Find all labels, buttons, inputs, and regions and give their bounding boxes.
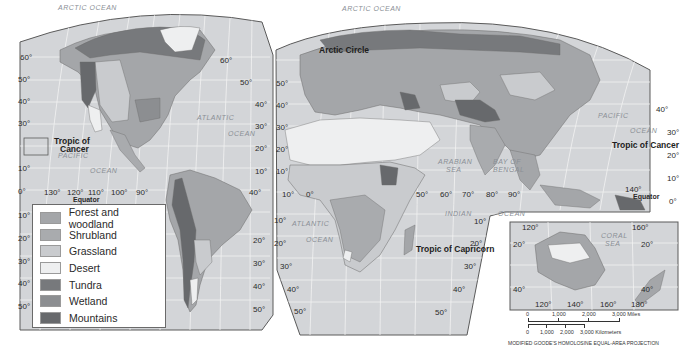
lat-label: 50° [240,79,252,87]
lon-label: 80° [486,191,498,199]
tundra-swatch [40,279,61,291]
lon-label: 90° [136,189,148,197]
lon-label: 50° [416,191,428,199]
lat-label: 10° [18,212,30,220]
ocean-label-indian-2: OCEAN [498,210,525,217]
scale-km-tick: 3,000 Kilometers [580,330,621,336]
lat-label: 60° [220,57,232,65]
ocean-label-coral-sea-2: SEA [605,240,621,247]
lat-label: 40° [513,286,525,294]
lat-label: 40° [18,98,30,106]
legend-label: Wetland [69,295,107,307]
legend-item-wetland: Wetland [40,293,165,310]
legend-item-grassland: Grassland [40,243,165,260]
legend-item-mountains: Mountains [40,310,165,327]
legend-label: Shrubland [69,229,117,241]
equator-west-label: Equator [73,196,99,203]
scale-tick [619,318,620,322]
ocean-label-pacific-west-2: OCEAN [90,167,117,174]
lat-label: 30° [253,260,265,268]
lon-label: 70° [462,191,474,199]
scale-km-tick: 0 [526,330,529,336]
ocean-label-atlantic-south: ATLANTIC [292,220,329,227]
ocean-label-arctic-east: ARCTIC OCEAN [342,5,401,12]
ocean-label-coral-sea: CORAL [601,232,628,239]
lon-label: 160° [632,224,649,232]
lat-label: 50° [294,308,306,316]
lat-label: 40° [276,102,288,110]
legend-item-desert: Desert [40,260,165,277]
tropic-of-cancer-east-label: Tropic of Cancer [612,141,679,150]
lat-label: 10° [18,165,30,173]
lat-label: 20° [641,241,653,249]
equator-east-label: Equator [633,193,659,200]
lat-label: 40° [641,286,653,294]
ocean-label-indian: INDIAN [445,210,472,217]
lat-label: 0° [669,198,677,206]
scale-tick [565,324,566,328]
lon-label: 120° [67,189,84,197]
lon-label: 110° [88,189,104,197]
lat-label: 20° [276,146,288,154]
lon-label: 100° [111,189,128,197]
lon-label: 160° [600,301,617,309]
scale-miles-tick: 3,000 Miles [612,312,640,318]
scale-miles-tick: 0 [526,312,529,318]
scale-tick [528,324,529,328]
wetland-swatch [40,295,61,307]
lat-label: 50° [18,76,30,84]
lat-label: 20° [513,241,525,249]
lat-label: 10° [255,168,267,176]
legend-label: Grassland [69,245,117,257]
lat-label: 40° [656,106,668,114]
scale-km-tick: 2,000 [560,330,574,336]
scale-bar: 0 1,000 2,000 3,000 Miles 0 1,000 2,000 … [508,310,688,353]
lat-label: 20° [18,235,30,243]
lat-label: 30° [255,123,267,131]
scale-miles-bar [528,321,619,322]
lon-label: 130° [44,189,61,197]
scale-tick [588,318,589,322]
scale-tick [584,324,585,328]
lat-label: 30° [667,129,679,137]
scale-miles-tick: 2,000 [582,312,596,318]
ocean-label-arctic-west: ARCTIC OCEAN [58,4,117,11]
lat-label: 60° [20,54,32,62]
lat-label: 40° [18,280,30,288]
lon-label: 120° [522,224,539,232]
lat-label: 10° [667,175,679,183]
ocean-label-atlantic-north-2: OCEAN [228,130,255,137]
legend-label: Desert [69,262,100,274]
lat-label: 30° [18,120,30,128]
lat-label: 10° [474,218,486,226]
arctic-circle-label: Arctic Circle [319,46,369,55]
lat-label: 40° [249,189,261,197]
ocean-label-bay-of-bengal-2: BENGAL [493,166,524,173]
lat-label: 30° [276,124,288,132]
ocean-label-arabian-sea: ARABIAN [438,158,472,165]
lon-label: 10° [282,191,294,199]
mountains-swatch [40,312,61,324]
tropic-of-cancer-west-label-2: Cancer [60,145,89,154]
scale-tick [546,324,547,328]
lon-label: 90° [508,191,520,199]
shrubland-swatch [40,229,61,241]
lat-label: 50° [18,303,30,311]
legend-label: Tundra [69,279,102,291]
lat-label: 20° [253,237,265,245]
projection-note: MODIFIED GOODE'S HOMOLOSINE EQUAL-AREA P… [508,341,659,346]
ocean-label-pacific-east: PACIFIC [598,112,629,119]
lat-label: 40° [255,101,267,109]
lat-label: 10° [276,168,288,176]
lat-label: 50° [253,306,265,314]
legend-label: Forest and woodland [69,206,165,230]
lat-label: 20° [274,240,286,248]
australia-inset [510,222,678,310]
legend-item-forest: Forest and woodland [40,210,165,227]
lat-label: 20° [255,145,267,153]
lat-label: 10° [274,217,286,225]
legend-item-tundra: Tundra [40,276,165,293]
scale-km-bar [528,324,584,325]
ocean-label-arabian-sea-2: SEA [446,166,462,173]
forest-swatch [40,212,61,224]
